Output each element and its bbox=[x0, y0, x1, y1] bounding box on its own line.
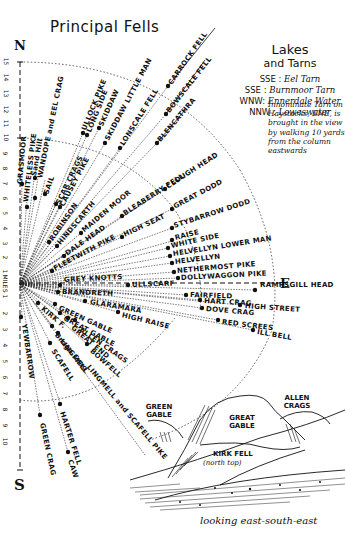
scale-tick: 4 bbox=[2, 344, 9, 348]
north-label: N bbox=[14, 38, 26, 53]
sketch-label-kirk-fell-sub: (north top) bbox=[203, 459, 242, 467]
scale-tick: 6 bbox=[2, 376, 9, 380]
scale-tick: 2 bbox=[2, 312, 9, 316]
scale-unit: MILES bbox=[2, 275, 9, 293]
scale-tick: 1 bbox=[2, 295, 9, 299]
fell-label: RAMPSGILL HEAD bbox=[260, 281, 334, 289]
scale-tick: 5 bbox=[2, 360, 9, 364]
page-title: Principal Fells bbox=[50, 18, 159, 36]
fell-diagram: Principal Fells N S E 15 14 13 12 11 10 … bbox=[0, 0, 345, 540]
scale-tick: 8 bbox=[2, 408, 9, 412]
scale-tick: 6 bbox=[2, 197, 9, 201]
scale-tick: 7 bbox=[2, 182, 9, 186]
sketch-label-kirk-fell: KIRK FELL bbox=[213, 450, 253, 458]
scale-tick: 10 bbox=[3, 134, 10, 142]
scale-tick: 12 bbox=[3, 106, 10, 114]
scale-tick: 9 bbox=[2, 424, 9, 428]
lake-row: SSE : Eel Tarn bbox=[236, 74, 344, 85]
lakes-heading: Lakes bbox=[236, 42, 344, 57]
scale-tick: 14 bbox=[3, 74, 10, 82]
scale-tick: 11 bbox=[3, 120, 10, 128]
fell-label: ULLSCARF bbox=[132, 280, 175, 289]
scale-tick: 5 bbox=[2, 212, 9, 216]
scale-tick: 7 bbox=[2, 392, 9, 396]
sketch-label-great-gable: GREAT GABLE bbox=[225, 414, 259, 430]
south-label: S bbox=[14, 476, 25, 494]
lake-row: SSE : Burnmoor Tarn bbox=[236, 85, 344, 96]
scale-tick: 8 bbox=[2, 167, 9, 171]
scale-tick: 15 bbox=[3, 58, 10, 66]
innominate-tarn-note: Innominate Tarn on Haystacks, ENE, is br… bbox=[268, 100, 345, 155]
sketch-label-green-gable: GREEN GABLE bbox=[143, 403, 175, 419]
scale-tick: 4 bbox=[2, 227, 9, 231]
scale-tick: 13 bbox=[3, 90, 10, 98]
scale-tick: 2 bbox=[2, 256, 9, 260]
scale-tick: 3 bbox=[2, 242, 9, 246]
lakes-subheading: and Tarns bbox=[236, 57, 344, 70]
scale-tick: 9 bbox=[2, 152, 9, 156]
sketch-caption: looking east-south-east bbox=[200, 515, 317, 526]
sketch-label-allen-crags: ALLEN CRAGS bbox=[280, 394, 314, 410]
scale-tick: 3 bbox=[2, 328, 9, 332]
scale-tick: 10 bbox=[2, 438, 9, 446]
scale-tick: 1 bbox=[2, 270, 9, 274]
